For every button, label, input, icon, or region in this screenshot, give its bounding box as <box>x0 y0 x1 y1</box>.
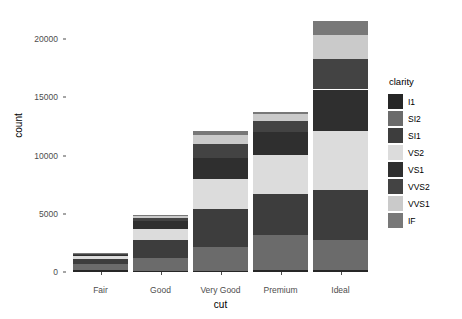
y-tick-label: 0 <box>12 267 58 277</box>
bar-segment-vs2[interactable] <box>73 256 128 259</box>
legend-swatch-si2 <box>388 111 403 126</box>
x-tick-mark <box>161 272 162 275</box>
y-tick-label: 15000 <box>12 92 58 102</box>
bar-segment-vvs2[interactable] <box>313 59 368 89</box>
y-tick-label: 5000 <box>12 209 58 219</box>
bar-segment-vs2[interactable] <box>313 131 368 190</box>
y-tick-mark <box>63 272 66 273</box>
y-tick-label: 20000 <box>12 34 58 44</box>
bar-segment-i1[interactable] <box>313 270 368 272</box>
x-tick-mark <box>281 272 282 275</box>
bar-segment-si2[interactable] <box>253 235 308 269</box>
legend: clarity I1SI2SI1VS2VS1VVS2VVS1IF <box>388 76 430 229</box>
bar-segment-si1[interactable] <box>253 194 308 236</box>
bar-segment-if[interactable] <box>313 21 368 35</box>
bar-segment-vvs1[interactable] <box>193 135 248 144</box>
legend-swatch-si1 <box>388 128 403 143</box>
y-tick-mark <box>63 155 66 156</box>
y-tick-mark <box>63 97 66 98</box>
legend-item-vvs2[interactable]: VVS2 <box>388 178 430 195</box>
bar-segment-si2[interactable] <box>193 247 248 271</box>
bar-segment-vs2[interactable] <box>193 179 248 209</box>
legend-item-i1[interactable]: I1 <box>388 93 430 110</box>
legend-item-vs2[interactable]: VS2 <box>388 144 430 161</box>
chart-plot-area: count cut 05000100001500020000 FairGoodV… <box>0 0 462 319</box>
bar-segment-i1[interactable] <box>73 270 128 272</box>
bar-segment-if[interactable] <box>193 131 248 134</box>
legend-swatch-vs2 <box>388 145 403 160</box>
bar-segment-vvs2[interactable] <box>133 218 188 221</box>
legend-items: I1SI2SI1VS2VS1VVS2VVS1IF <box>388 93 430 229</box>
bar-segment-if[interactable] <box>253 112 308 115</box>
bar-segment-vs1[interactable] <box>73 254 128 256</box>
bar-fair[interactable] <box>73 253 128 272</box>
bar-segment-vvs2[interactable] <box>253 121 308 131</box>
bar-segment-if[interactable] <box>133 215 188 216</box>
bar-segment-vvs1[interactable] <box>253 114 308 121</box>
bar-very-good[interactable] <box>193 131 248 272</box>
bar-segment-vs2[interactable] <box>133 229 188 240</box>
bar-segment-i1[interactable] <box>253 270 308 272</box>
bar-segment-si1[interactable] <box>193 209 248 247</box>
x-tick-label: Ideal <box>306 285 376 295</box>
legend-swatch-i1 <box>388 94 403 109</box>
x-axis-title: cut <box>73 299 368 310</box>
legend-item-vvs1[interactable]: VVS1 <box>388 195 430 212</box>
bar-segment-vs1[interactable] <box>133 221 188 229</box>
bar-segment-si1[interactable] <box>73 259 128 264</box>
bar-segment-si2[interactable] <box>313 240 368 270</box>
bar-segment-vs1[interactable] <box>253 132 308 155</box>
legend-item-if[interactable]: IF <box>388 212 430 229</box>
bar-segment-si1[interactable] <box>313 190 368 240</box>
bar-segment-vvs2[interactable] <box>193 144 248 158</box>
legend-title: clarity <box>389 76 430 87</box>
bar-segment-i1[interactable] <box>193 271 248 272</box>
bar-segment-vs1[interactable] <box>313 90 368 132</box>
x-tick-mark <box>341 272 342 275</box>
x-tick-mark <box>221 272 222 275</box>
y-tick-mark <box>63 213 66 214</box>
bar-segment-si1[interactable] <box>133 240 188 258</box>
bar-segment-si2[interactable] <box>133 258 188 271</box>
y-tick-mark <box>63 39 66 40</box>
legend-swatch-if <box>388 213 403 228</box>
bar-segment-vvs1[interactable] <box>133 216 188 218</box>
legend-item-si1[interactable]: SI1 <box>388 127 430 144</box>
legend-swatch-vvs2 <box>388 179 403 194</box>
bar-segment-vs2[interactable] <box>253 155 308 194</box>
bar-ideal[interactable] <box>313 21 368 272</box>
legend-label: SI1 <box>408 131 421 141</box>
y-tick-label: 10000 <box>12 151 58 161</box>
bar-segment-vvs2[interactable] <box>73 254 128 255</box>
legend-label: VVS1 <box>408 199 430 209</box>
legend-item-si2[interactable]: SI2 <box>388 110 430 127</box>
legend-swatch-vs1 <box>388 162 403 177</box>
legend-item-vs1[interactable]: VS1 <box>388 161 430 178</box>
legend-label: VS1 <box>408 165 424 175</box>
legend-swatch-vvs1 <box>388 196 403 211</box>
legend-label: SI2 <box>408 114 421 124</box>
bar-good[interactable] <box>133 215 188 272</box>
legend-label: VVS2 <box>408 182 430 192</box>
bar-premium[interactable] <box>253 112 308 272</box>
x-tick-mark <box>101 272 102 275</box>
legend-label: I1 <box>408 97 415 107</box>
bar-segment-si2[interactable] <box>73 264 128 269</box>
legend-label: IF <box>408 216 416 226</box>
bar-segment-i1[interactable] <box>133 271 188 272</box>
legend-label: VS2 <box>408 148 424 158</box>
bar-segment-vvs1[interactable] <box>313 35 368 59</box>
bar-segment-vs1[interactable] <box>193 158 248 179</box>
